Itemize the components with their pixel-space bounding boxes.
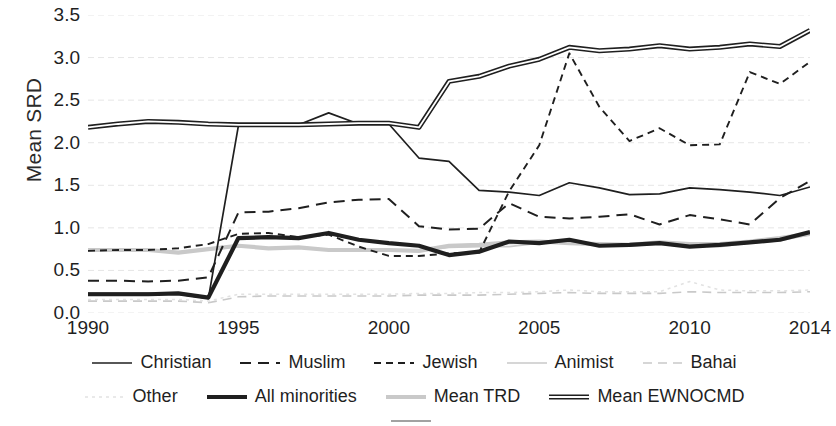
y-tick-label: 0.5 bbox=[24, 260, 80, 279]
legend-item-animist[interactable]: Animist bbox=[506, 352, 614, 373]
legend-item-christian[interactable]: Christian bbox=[91, 352, 211, 373]
legend-line-icon bbox=[373, 356, 415, 370]
legend-swatch-solid-thick-light bbox=[385, 390, 427, 404]
series-line-mean-trd bbox=[88, 234, 810, 253]
legend-label: All minorities bbox=[255, 386, 357, 407]
y-tick-label: 1.5 bbox=[24, 175, 80, 194]
legend-item-mean-ewnocmd[interactable]: Mean EWNOCMD bbox=[548, 386, 744, 407]
y-tick-label: 3.0 bbox=[24, 48, 80, 67]
legend-line-icon bbox=[642, 356, 684, 370]
x-tick-label: 2014 bbox=[770, 318, 836, 337]
x-tick-label: 1995 bbox=[198, 318, 278, 337]
legend-line-icon bbox=[390, 416, 432, 426]
legend-swatch-solid-thick-dark bbox=[206, 390, 248, 404]
legend-item-muslim[interactable]: Muslim bbox=[239, 352, 345, 373]
legend-swatch-solid-thick-hollow bbox=[548, 390, 590, 404]
legend-line-icon bbox=[84, 390, 126, 404]
legend-label: Other bbox=[133, 386, 178, 407]
legend-item-bahai[interactable]: Bahai bbox=[642, 352, 737, 373]
legend-row-3 bbox=[0, 416, 828, 426]
legend-swatch-dot-light bbox=[84, 390, 126, 404]
series-line-other bbox=[88, 282, 810, 302]
legend-line-icon bbox=[385, 390, 427, 404]
legend-item-jewish[interactable]: Jewish bbox=[373, 352, 477, 373]
x-tick-label: 1990 bbox=[48, 318, 128, 337]
legend-item-clipped-0[interactable] bbox=[390, 416, 439, 426]
legend-item-all-minorities[interactable]: All minorities bbox=[206, 386, 357, 407]
legend-label: Animist bbox=[555, 352, 614, 373]
legend-swatch-solid-thin-light bbox=[506, 356, 548, 370]
series-line-muslim bbox=[88, 181, 810, 281]
legend-swatch-dash-long-dark bbox=[239, 356, 281, 370]
legend-label: Jewish bbox=[422, 352, 477, 373]
legend-label: Mean TRD bbox=[434, 386, 521, 407]
y-tick-label: 3.5 bbox=[24, 5, 80, 24]
legend-item-other[interactable]: Other bbox=[84, 386, 178, 407]
series-line-mean-ewnocmd-core bbox=[88, 30, 810, 127]
legend-label: Bahai bbox=[691, 352, 737, 373]
legend-swatch-clipped bbox=[390, 416, 432, 426]
legend-row-1: ChristianMuslimJewishAnimistBahai bbox=[0, 352, 828, 373]
legend-swatch-solid-thin-dark bbox=[91, 356, 133, 370]
legend-label: Mean EWNOCMD bbox=[597, 386, 744, 407]
series-line-mean-ewnocmd bbox=[88, 30, 810, 127]
legend-line-icon bbox=[548, 390, 590, 404]
series-canvas bbox=[88, 15, 810, 313]
legend-label: Christian bbox=[140, 352, 211, 373]
legend-item-mean-trd[interactable]: Mean TRD bbox=[385, 386, 521, 407]
x-tick-label: 2000 bbox=[349, 318, 429, 337]
legend-swatch-dash-short-dark bbox=[373, 356, 415, 370]
x-tick-label: 2005 bbox=[499, 318, 579, 337]
y-tick-label: 2.0 bbox=[24, 133, 80, 152]
legend-line-icon bbox=[506, 356, 548, 370]
y-tick-label: 1.0 bbox=[24, 218, 80, 237]
legend-swatch-dash-long-light bbox=[642, 356, 684, 370]
legend-label: Muslim bbox=[288, 352, 345, 373]
plot-area bbox=[88, 15, 810, 313]
legend-row-2: OtherAll minoritiesMean TRDMean EWNOCMD bbox=[0, 386, 828, 407]
legend-line-icon bbox=[206, 390, 248, 404]
legend-line-icon bbox=[91, 356, 133, 370]
legend-line-icon bbox=[239, 356, 281, 370]
y-tick-label: 2.5 bbox=[24, 90, 80, 109]
x-tick-label: 2010 bbox=[650, 318, 730, 337]
